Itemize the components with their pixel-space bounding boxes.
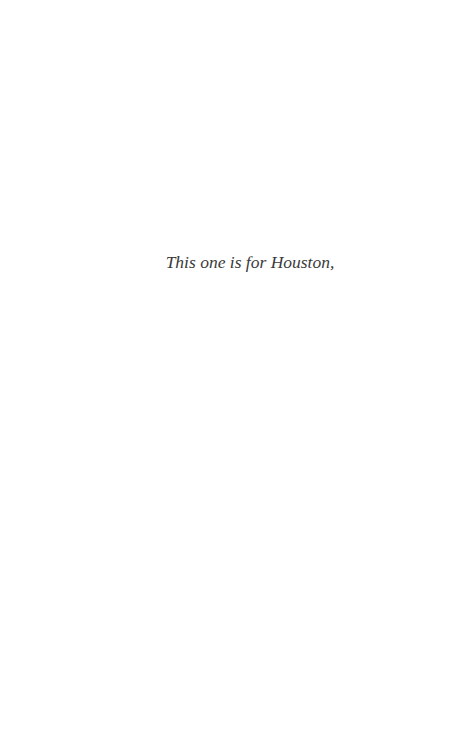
dedication-text: This one is for Houston, <box>0 251 466 273</box>
book-page: This one is for Houston, <box>0 0 466 745</box>
